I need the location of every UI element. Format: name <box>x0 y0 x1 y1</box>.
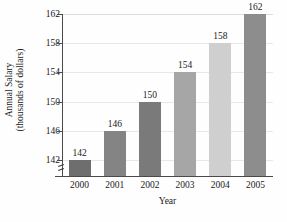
y-axis-tick-mark <box>57 160 62 161</box>
bar-value-label: 154 <box>178 60 192 70</box>
y-axis-title: Annual Salary (thousands of dollars) <box>0 0 30 180</box>
bar: 142 <box>69 160 91 177</box>
bar-value-label: 150 <box>143 90 157 100</box>
bar-value-label: 158 <box>213 31 227 41</box>
bar: 162 <box>244 14 266 177</box>
y-axis-title-line2: (thousands of dollars) <box>15 49 26 132</box>
bar: 146 <box>104 131 126 177</box>
bar: 150 <box>139 102 161 177</box>
bar-value-label: 146 <box>108 119 122 129</box>
y-axis-tick-mark <box>57 131 62 132</box>
y-axis-tick-mark <box>57 72 62 73</box>
gridline <box>62 72 273 73</box>
x-axis-tick-label: 2000 <box>70 180 89 190</box>
gridline <box>62 131 273 132</box>
y-axis-line <box>62 14 63 177</box>
x-axis-tick-label: 2003 <box>176 180 195 190</box>
y-axis-tick-labels: 142146150154158162 <box>28 0 60 180</box>
x-axis-tick-labels: 200020012002200320042005 <box>62 180 273 194</box>
bar-value-label: 142 <box>72 148 86 158</box>
x-axis-line <box>55 176 273 177</box>
bar-chart-figure: Annual Salary (thousands of dollars) 142… <box>0 0 287 222</box>
y-axis-tick-mark <box>57 102 62 103</box>
x-axis-tick-label: 2002 <box>140 180 159 190</box>
y-axis-title-line1: Annual Salary <box>4 63 14 118</box>
plot-area: 142146150154158162 <box>62 14 273 177</box>
gridline <box>62 43 273 44</box>
x-axis-title: Year <box>62 196 273 206</box>
gridline <box>62 160 273 161</box>
gridline <box>62 102 273 103</box>
gridline <box>62 14 273 15</box>
x-axis-tick-label: 2001 <box>105 180 124 190</box>
y-axis-tick-mark <box>57 14 62 15</box>
x-axis-tick-label: 2005 <box>246 180 265 190</box>
y-axis-tick-mark <box>57 43 62 44</box>
axis-break-icon <box>58 165 64 170</box>
x-axis-tick-label: 2004 <box>211 180 230 190</box>
bar-value-label: 162 <box>248 2 262 12</box>
bar: 154 <box>174 72 196 177</box>
bar: 158 <box>209 43 231 177</box>
